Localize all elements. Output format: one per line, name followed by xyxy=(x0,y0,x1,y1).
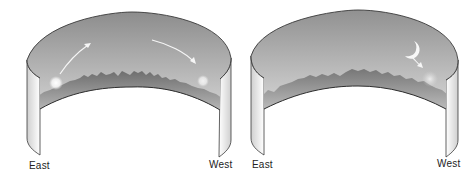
moon-diagram-panel: East West xyxy=(238,0,476,181)
rising-sun-icon xyxy=(49,76,63,90)
west-label: West xyxy=(437,158,460,169)
sky-cylinder-illustration xyxy=(238,0,476,181)
sun-diagram-panel: East West xyxy=(0,0,238,181)
setting-sun-icon xyxy=(197,75,209,87)
horizon-glow-icon xyxy=(422,71,438,87)
east-label: East xyxy=(252,159,273,170)
west-label: West xyxy=(209,159,232,170)
east-label: East xyxy=(29,160,50,171)
sky-cylinder-illustration xyxy=(0,0,238,181)
